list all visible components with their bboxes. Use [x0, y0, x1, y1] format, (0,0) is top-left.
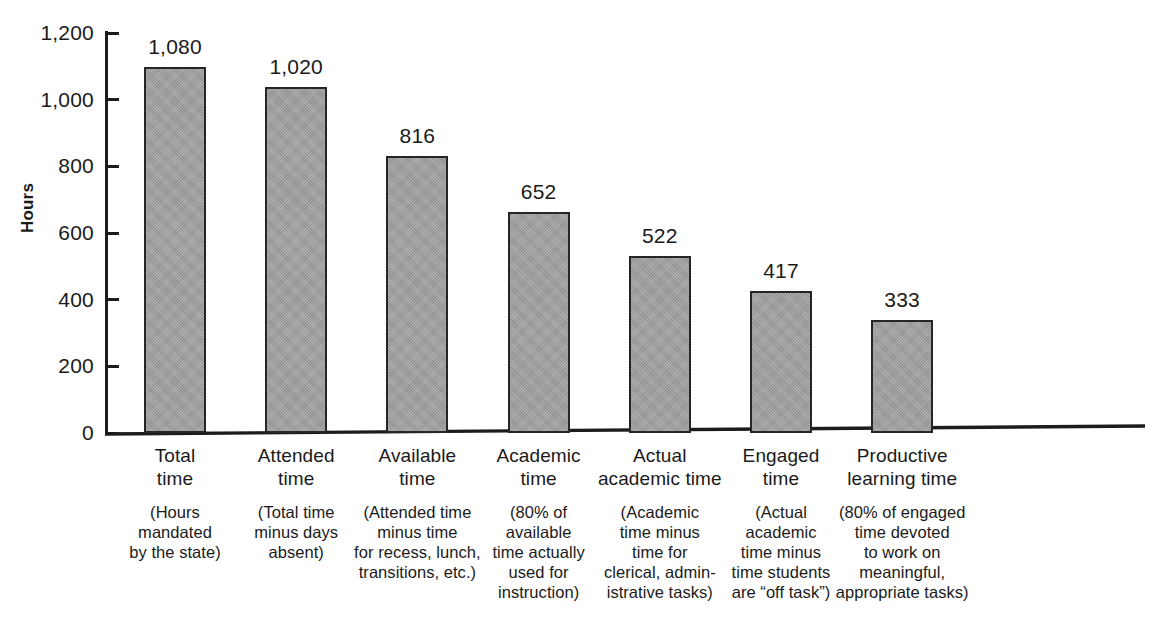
bar-value-label: 522	[600, 225, 720, 246]
bar-value-label: 1,080	[115, 36, 235, 57]
bar	[386, 156, 448, 433]
category-description: (80% of engaged time devoted to work on …	[822, 502, 982, 602]
bar-value-label: 816	[357, 125, 477, 146]
plot-area: 1,0801,020816652522417333	[0, 0, 1153, 440]
bar-value-label: 652	[479, 181, 599, 202]
bar	[144, 67, 206, 433]
bar-value-label: 333	[842, 289, 962, 310]
bar	[265, 87, 327, 433]
bar	[629, 256, 691, 433]
bar	[508, 212, 570, 433]
category-label-block: Productive learning time(80% of engaged …	[822, 444, 982, 602]
bar	[871, 320, 933, 433]
category-title: Productive learning time	[822, 444, 982, 490]
bar	[750, 291, 812, 433]
bar-chart: Hours 02004006008001,0001,200 1,0801,020…	[0, 0, 1153, 622]
bar-value-label: 1,020	[236, 56, 356, 77]
bar-value-label: 417	[721, 260, 841, 281]
